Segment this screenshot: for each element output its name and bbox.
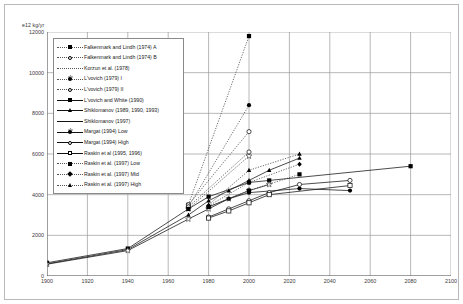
legend-symbol-diamond-filled xyxy=(68,172,72,176)
legend-symbol-circle-open xyxy=(68,141,72,145)
series-4 xyxy=(186,150,251,209)
legend-symbol-triangle-filled xyxy=(68,183,72,187)
series-0 xyxy=(186,34,251,207)
legend-item-label: Raskin et al. (1997) High xyxy=(84,182,141,187)
legend-item: Raskin et al (1995, 1996) xyxy=(57,148,180,159)
legend-item-label: Raskin et al (1995, 1996) xyxy=(84,151,142,156)
y-tick-label: 12000 xyxy=(29,29,44,35)
legend-item: Korzun et al. (1978) xyxy=(57,63,180,74)
legend-item-label: L'vovich and White (1990) xyxy=(84,98,144,103)
legend-marker-icon xyxy=(57,43,83,52)
legend-item: Raskin et al. (1997) High xyxy=(57,180,180,191)
legend-marker-icon xyxy=(57,181,83,190)
legend-item: L'vovich (1979) I xyxy=(57,74,180,85)
y-tick-label: 2000 xyxy=(32,232,44,238)
x-tick-label: 1940 xyxy=(122,278,134,284)
legend-item-label: Korzun et al. (1978) xyxy=(84,66,130,71)
x-tick-label: 1960 xyxy=(162,278,174,284)
legend-item-label: Falkenmark and Lindh (1974) B xyxy=(84,55,157,60)
legend-marker-icon xyxy=(57,170,83,179)
legend-marker-icon xyxy=(57,106,83,115)
legend-symbol-square-filled xyxy=(68,98,72,102)
legend-item: Raskin et al. (1997) Mid xyxy=(57,169,180,180)
legend-item: Falkenmark and Lindh (1974) B xyxy=(57,53,180,64)
series-10 xyxy=(207,183,353,220)
legend-item: L'vovich and White (1990) xyxy=(57,95,180,106)
y-tick-label: 4000 xyxy=(32,192,44,198)
x-tick-label: 2100 xyxy=(445,278,457,284)
legend-item-label: Margat (1994) High xyxy=(84,140,129,145)
legend-item: Margat (1994) High xyxy=(57,137,180,148)
legend-symbol-circle-filled xyxy=(68,77,72,81)
y-tick-label: 8000 xyxy=(32,110,44,116)
legend-item-label: Margat (1994) Low xyxy=(84,129,128,134)
legend-item: Margat (1994) Low xyxy=(57,127,180,138)
legend-item-label: L'vovich (1979) I xyxy=(84,76,122,81)
legend-marker-icon xyxy=(57,53,83,62)
x-tick-label: 2000 xyxy=(243,278,255,284)
legend-item-label: Raskin et al. (1997) Mid xyxy=(84,172,139,177)
x-axis-tick-labels: 1900192019401960198020002020204020602080… xyxy=(47,278,451,290)
legend-symbol-circle-open xyxy=(68,56,72,60)
figure-frame: e12 kg/yr 120001000080006000400020000 19… xyxy=(4,4,459,300)
y-axis-unit-caption: e12 kg/yr xyxy=(22,22,44,28)
x-tick-label: 2060 xyxy=(364,278,376,284)
legend-item: L'vovich (1979) II xyxy=(57,84,180,95)
legend-item-label: Shiklomanov (1997) xyxy=(84,119,130,124)
legend-marker-icon xyxy=(57,117,83,126)
legend-symbol-square-open xyxy=(68,151,72,155)
legend-symbol-square-filled xyxy=(68,45,72,49)
legend-marker-icon xyxy=(57,75,83,84)
chart-screenshot: e12 kg/yr 120001000080006000400020000 19… xyxy=(0,0,463,304)
legend-item: Falkenmark and Lindh (1974) A xyxy=(57,42,180,53)
x-tick-label: 2040 xyxy=(324,278,336,284)
y-tick-label: 10000 xyxy=(29,70,44,76)
legend-marker-icon xyxy=(57,96,83,105)
x-tick-label: 1900 xyxy=(41,278,53,284)
legend-item-label: Raskin et al. (1997) Low xyxy=(84,161,140,166)
legend-symbol-circle-open xyxy=(68,88,72,92)
legend-symbol-triangle-filled xyxy=(68,109,72,113)
legend-marker-icon xyxy=(57,85,83,94)
legend-item: Shiklomanov (1997) xyxy=(57,116,180,127)
legend-item: Shiklomanov (1989, 1990, 1993) xyxy=(57,106,180,117)
legend-marker-icon xyxy=(57,64,83,73)
legend-item: Raskin et al. (1997) Low xyxy=(57,159,180,170)
series-12 xyxy=(206,162,302,209)
legend-item-label: Shiklomanov (1989, 1990, 1993) xyxy=(84,108,159,113)
legend-marker-icon xyxy=(57,159,83,168)
chart-legend: Falkenmark and Lindh (1974) AFalkenmark … xyxy=(53,38,184,194)
legend-marker-icon xyxy=(57,149,83,158)
x-tick-label: 2020 xyxy=(283,278,295,284)
x-tick-label: 1920 xyxy=(81,278,93,284)
x-tick-label: 2080 xyxy=(405,278,417,284)
y-tick-label: 6000 xyxy=(32,151,44,157)
legend-item-label: Falkenmark and Lindh (1974) A xyxy=(84,45,156,50)
legend-marker-icon xyxy=(57,128,83,137)
y-axis-tick-labels: 120001000080006000400020000 xyxy=(5,32,44,276)
legend-symbol-square-filled xyxy=(68,162,72,166)
legend-symbol-circle-filled xyxy=(68,130,72,134)
x-tick-label: 1980 xyxy=(203,278,215,284)
legend-marker-icon xyxy=(57,138,83,147)
legend-item-label: L'vovich (1979) II xyxy=(84,87,123,92)
